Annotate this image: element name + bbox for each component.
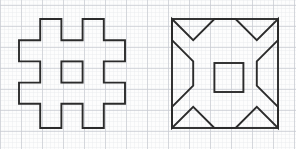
geometry-drawing [0,0,296,149]
figure-canvas [0,0,296,149]
page-background [0,0,296,149]
